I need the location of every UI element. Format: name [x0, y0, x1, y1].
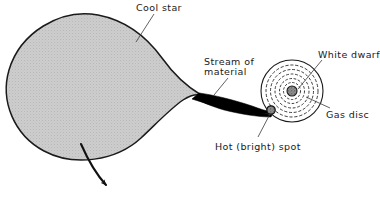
- label-cool-star: Cool star: [136, 3, 182, 14]
- label-gas-disc: Gas disc: [326, 110, 369, 121]
- label-hot-bright-spot: Hot (bright) spot: [215, 142, 301, 153]
- label-stream-of-material-line2: material: [204, 67, 247, 78]
- leader-hot-spot: [258, 114, 270, 137]
- cool-star-shape: [6, 14, 201, 160]
- label-white-dwarf: White dwarf: [318, 50, 380, 61]
- accretion-stream-shape: [192, 93, 272, 117]
- leader-stream: [214, 78, 228, 95]
- hot-spot-shape: [267, 106, 275, 114]
- leader-cool-star: [136, 14, 154, 42]
- leader-gas-disc: [306, 97, 330, 108]
- binary-star-diagram: Cool star Stream of material White dwarf…: [0, 0, 380, 209]
- white-dwarf-shape: [287, 86, 297, 96]
- diagram-canvas: [0, 0, 380, 209]
